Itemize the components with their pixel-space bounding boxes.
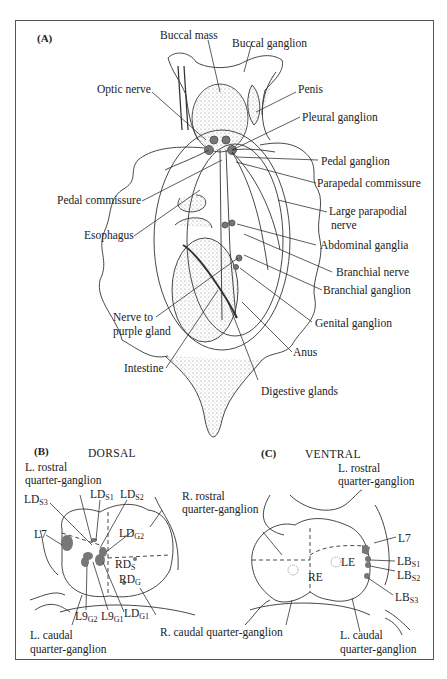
label-c-l-rostral-line2: quarter-ganglion — [338, 475, 414, 488]
label-optic-nerve: Optic nerve — [97, 83, 151, 96]
aplysia-body-drawing — [99, 53, 321, 437]
label-ld-s1: LDS1 — [90, 488, 114, 504]
panel-a-label: (A) — [37, 32, 52, 45]
label-pleural-ganglion: Pleural ganglion — [302, 111, 378, 124]
label-buccal-ganglion: Buccal ganglion — [232, 37, 307, 50]
figure-artwork — [0, 0, 447, 679]
label-b-r-rostral-line2: quarter-ganglion — [182, 503, 258, 516]
panel-b-title: DORSAL — [88, 447, 136, 460]
panel-c-title: VENTRAL — [305, 448, 361, 461]
label-penis: Penis — [298, 83, 323, 96]
label-b-l-rostral-line2: quarter-ganglion — [25, 474, 101, 487]
label-branchial-ganglion: Branchial ganglion — [323, 284, 411, 297]
label-lb-s3: LBS3 — [395, 591, 418, 607]
label-re: RE — [308, 571, 323, 584]
label-lb-s2: LBS2 — [397, 569, 420, 585]
label-le: LE — [341, 556, 355, 569]
label-large-parapodial-nerve-line1: Large parapodial — [329, 205, 407, 218]
label-pedal-commissure: Pedal commissure — [57, 194, 141, 207]
label-rd-s: RDS — [115, 558, 135, 574]
label-ld-s2: LDS2 — [120, 488, 144, 504]
label-pedal-ganglion: Pedal ganglion — [321, 155, 390, 168]
label-b-l-caudal-line2: quarter-ganglion — [30, 643, 106, 656]
label-b-l7: L7 — [34, 528, 47, 541]
label-esophagus: Esophagus — [84, 229, 134, 242]
label-ld-g1: LDG1 — [124, 607, 149, 623]
label-b-l-rostral-line1: L. rostral — [25, 461, 67, 474]
label-c-l-caudal-line2: quarter-ganglion — [340, 643, 416, 656]
label-nerve-to-purple-gland-line1: Nerve to — [113, 311, 153, 324]
label-large-parapodial-nerve-line2: nerve — [331, 219, 357, 232]
label-anus: Anus — [293, 346, 317, 359]
panel-b-label: (B) — [34, 445, 49, 458]
label-b-l-caudal-line1: L. caudal — [30, 629, 73, 642]
label-abdominal-ganglia: Abdominal ganglia — [320, 239, 408, 252]
panel-c-label: (C) — [261, 447, 276, 460]
label-c-l-caudal-line1: L. caudal — [340, 629, 383, 642]
label-digestive-glands: Digestive glands — [261, 385, 338, 398]
label-nerve-to-purple-gland-line2: purple gland — [113, 325, 171, 338]
label-l9-g1: L9G1 — [101, 610, 124, 626]
label-branchial-nerve: Branchial nerve — [336, 266, 409, 279]
label-rd-g: RDG — [119, 573, 141, 589]
label-genital-ganglion: Genital ganglion — [315, 317, 392, 330]
label-buccal-mass: Buccal mass — [160, 29, 218, 42]
label-ld-s3: LDS3 — [24, 493, 48, 509]
panel-c-drawing — [245, 490, 410, 635]
label-b-r-rostral-line1: R. rostral — [182, 490, 225, 503]
label-c-l-rostral-line1: L. rostral — [338, 462, 380, 475]
label-parapedal-commissure: Parapedal commissure — [317, 177, 421, 190]
label-b-r-caudal: R. caudal quarter-ganglion — [160, 626, 283, 639]
label-intestine: Intestine — [124, 362, 164, 375]
panel-b-drawing — [30, 495, 195, 625]
label-c-l7: L7 — [398, 532, 411, 545]
label-l9-g2: L9G2 — [75, 610, 98, 626]
label-ld-g2: LDG2 — [119, 527, 144, 543]
